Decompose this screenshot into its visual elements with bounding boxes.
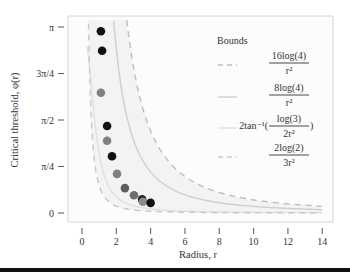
data-point [97, 27, 106, 36]
legend-suffix: ) [310, 120, 313, 132]
legend-numerator: 2log(2) [274, 142, 303, 154]
x-tick-label: 2 [114, 236, 119, 247]
y-axis: 0π/4π/23π/4π [36, 22, 64, 219]
y-tick-label: π [49, 22, 54, 33]
data-point [103, 122, 112, 131]
legend-numerator: log(3) [277, 113, 301, 125]
legend-numerator: 8log(4) [274, 82, 303, 94]
x-axis: 02468101214 [80, 228, 328, 247]
x-tick-label: 6 [182, 236, 187, 247]
x-tick-label: 8 [217, 236, 222, 247]
y-tick-label: π/2 [41, 115, 54, 126]
legend-numerator: 16log(4) [272, 50, 306, 62]
data-point [108, 152, 117, 161]
data-point [121, 184, 130, 193]
x-axis-title: Radius, r [179, 249, 217, 260]
data-point [103, 137, 112, 146]
legend-denominator: r² [286, 65, 292, 76]
legend-title: Bounds [217, 35, 248, 46]
x-tick-label: 10 [249, 236, 259, 247]
data-point [97, 89, 106, 98]
chart: 02468101214 0π/4π/23π/4π Bounds16log(4)r… [0, 0, 350, 272]
y-tick-label: 3π/4 [36, 68, 54, 79]
data-point [139, 198, 148, 207]
x-tick-label: 0 [80, 236, 85, 247]
data-point [98, 47, 107, 56]
data-point [146, 199, 155, 208]
data-point [130, 191, 139, 200]
y-tick-label: π/4 [41, 161, 54, 172]
bottom-border [0, 268, 350, 272]
data-point [113, 170, 122, 179]
legend-denominator: 3r² [283, 157, 294, 168]
x-tick-label: 14 [317, 236, 327, 247]
y-axis-title: Critical threshold, φ(r) [9, 72, 21, 167]
legend-denominator: 2r² [283, 128, 294, 139]
legend-prefix: 2tan⁻¹( [239, 120, 268, 132]
x-tick-label: 4 [148, 236, 153, 247]
y-tick-label: 0 [49, 208, 54, 219]
legend-denominator: r² [286, 97, 292, 108]
x-tick-label: 12 [283, 236, 293, 247]
